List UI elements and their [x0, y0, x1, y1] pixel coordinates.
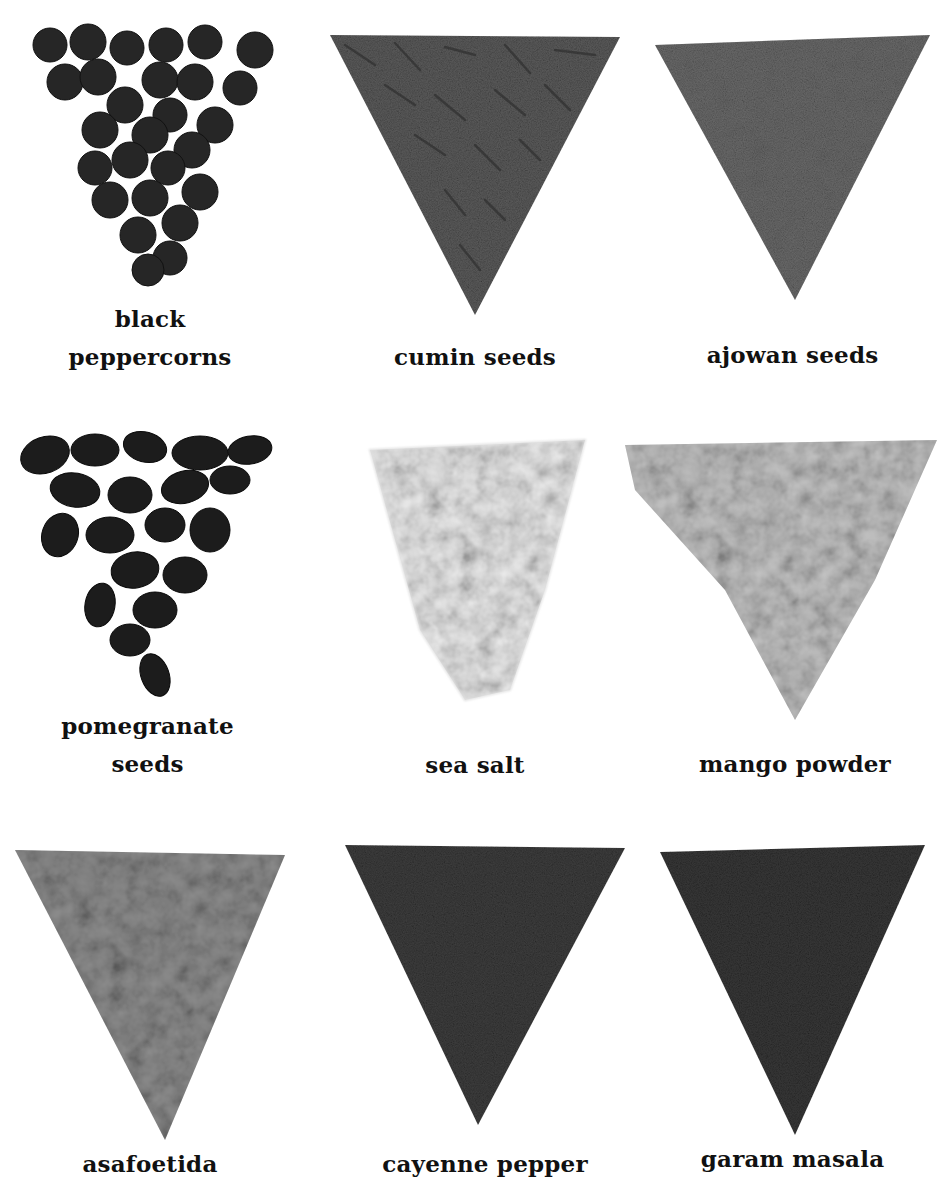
- pomegranate-seeds-icon: [15, 425, 280, 705]
- black-peppercorns-image: [20, 20, 280, 290]
- cayenne-pepper-image: [340, 840, 630, 1125]
- mango-powder-image: [615, 430, 937, 730]
- ajowan-seeds-icon: [650, 25, 935, 305]
- garam-masala-image: [655, 840, 930, 1135]
- label-ajowan-seeds: ajowan seeds: [650, 336, 935, 374]
- label-asafoetida: asafoetida: [10, 1145, 290, 1181]
- label-pomegranate-seeds: pomegranate seeds: [15, 707, 280, 783]
- cumin-seeds-icon: [325, 25, 625, 320]
- label-black-peppercorns: black peppercorns: [20, 300, 280, 376]
- pomegranate-seeds-image: [15, 425, 280, 705]
- ajowan-seeds-image: [650, 25, 935, 305]
- asafoetida-icon: [10, 840, 290, 1140]
- asafoetida-image: [10, 840, 290, 1140]
- mango-powder-icon: [615, 430, 937, 730]
- label-cayenne-pepper: cayenne pepper: [340, 1145, 630, 1181]
- label-garam-masala: garam masala: [655, 1140, 930, 1178]
- label-mango-powder: mango powder: [665, 745, 925, 783]
- cayenne-pepper-icon: [340, 840, 630, 1125]
- garam-masala-icon: [655, 840, 930, 1135]
- sea-salt-icon: [360, 430, 620, 710]
- peppercorns-icon: [20, 20, 280, 290]
- cumin-seeds-image: [325, 25, 625, 320]
- label-sea-salt: sea salt: [340, 746, 610, 784]
- label-cumin-seeds: cumin seeds: [325, 338, 625, 376]
- sea-salt-image: [360, 430, 620, 710]
